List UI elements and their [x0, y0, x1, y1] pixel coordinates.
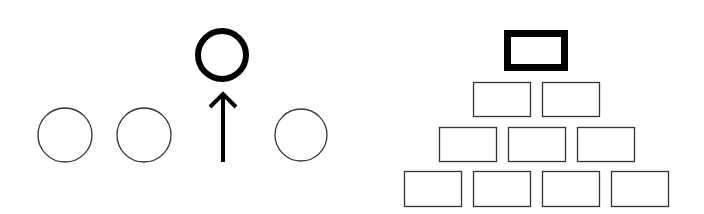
circle-shape: [38, 108, 92, 162]
rectangle-pyramid-figure: [405, 34, 669, 207]
rectangle-shape: [509, 128, 566, 162]
rectangle-shape: [543, 172, 600, 207]
highlighted-rectangle-shape: [508, 34, 565, 68]
circle-arrow-figure: [38, 31, 327, 162]
circle-shape: [275, 109, 327, 161]
rectangle-shape: [543, 83, 600, 117]
highlighted-circle-shape: [198, 31, 246, 79]
rectangle-shape: [578, 128, 635, 162]
rectangle-shape: [474, 172, 531, 207]
rectangle-shape: [474, 83, 531, 117]
circle-shape: [117, 108, 171, 162]
diagram-canvas: [0, 0, 704, 214]
rectangle-shape: [612, 172, 669, 207]
rectangle-shape: [405, 172, 462, 207]
rectangle-shape: [440, 128, 497, 162]
up-arrow-icon: [210, 94, 236, 162]
